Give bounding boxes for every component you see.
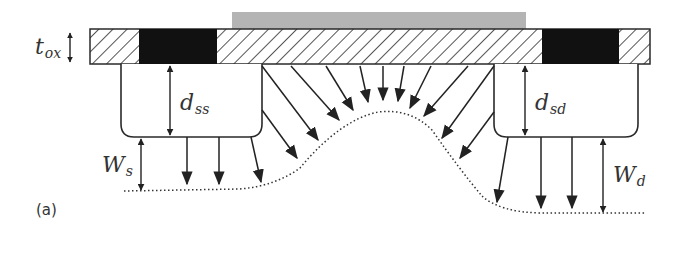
ws-label: Ws <box>102 154 133 178</box>
gate-electrode <box>232 12 526 29</box>
tox-label: tox <box>35 36 61 60</box>
source-field-arrows <box>187 137 261 184</box>
tox-subscript: ox <box>45 45 61 61</box>
drain-field-arrows <box>497 137 572 208</box>
ws-symbol: W <box>102 152 125 177</box>
tox-symbol: t <box>35 34 44 59</box>
dsd-label: dsd <box>535 92 566 116</box>
channel-field-arrows <box>262 66 494 158</box>
figure-caption: (a) <box>36 201 57 219</box>
source-contact <box>139 29 217 64</box>
dss-subscript: ss <box>195 101 209 117</box>
dsd-subscript: sd <box>550 101 566 117</box>
dsd-symbol: d <box>535 90 549 115</box>
drain-contact <box>542 29 619 64</box>
wd-label: Wd <box>613 164 646 188</box>
dss-label: dss <box>180 92 209 116</box>
mosfet-depletion-diagram: tox dss dsd Ws Wd (a) <box>0 0 700 255</box>
wd-subscript: d <box>637 173 646 189</box>
wd-symbol: W <box>613 162 636 187</box>
dss-symbol: d <box>180 90 194 115</box>
diagram-graphic <box>0 0 700 255</box>
ws-subscript: s <box>126 163 133 179</box>
